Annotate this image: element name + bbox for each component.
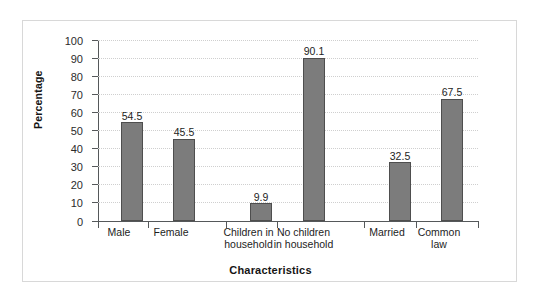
plot-area: 100 90 80 70 60 50 40 30 [98,40,478,221]
x-label-female: Female [141,227,201,239]
bar-value-married: 32.5 [390,151,410,162]
y-tick-90: 90 [92,58,98,59]
y-tick-label-0: 0 [77,217,83,228]
y-tick-40: 40 [92,148,98,149]
y-tick-50: 50 [92,130,98,131]
x-axis-title: Characteristics [23,264,518,276]
bar-male[interactable]: 54.5 [121,122,143,221]
gridline-40 [98,148,478,149]
bar-common-law[interactable]: 67.5 [441,99,463,221]
bar-value-female: 45.5 [174,127,194,138]
x-axis-line [98,221,479,222]
gridline-100 [98,40,478,41]
y-tick-label-90: 90 [71,54,83,65]
y-tick-100: 100 [92,40,98,41]
y-tick-label-70: 70 [71,90,83,101]
gridline-70 [98,94,478,95]
gridline-20 [98,184,478,185]
y-tick-label-100: 100 [65,36,83,47]
gridline-80 [98,76,478,77]
bar-female[interactable]: 45.5 [173,139,195,221]
gridline-50 [98,130,478,131]
y-tick-60: 60 [92,112,98,113]
x-label-no-children-in-household: No children in household [266,227,341,250]
gridline-10 [98,202,478,203]
y-tick-label-20: 20 [71,180,83,191]
y-tick-label-50: 50 [71,126,83,137]
y-axis-title: Percentage [32,70,44,129]
y-tick-10: 10 [92,202,98,203]
gridline-60 [98,112,478,113]
y-tick-label-10: 10 [71,198,83,209]
y-tick-20: 20 [92,184,98,185]
gridline-30 [98,166,478,167]
gridline-90 [98,58,478,59]
y-tick-label-30: 30 [71,162,83,173]
bar-value-common-law: 67.5 [442,87,462,98]
x-label-common-law: Common law [409,227,469,250]
bar-value-no-children-in-household: 90.1 [304,46,324,57]
y-tick-80: 80 [92,76,98,77]
y-tick-label-80: 80 [71,72,83,83]
x-axis-tick-6 [478,222,479,228]
bar-married[interactable]: 32.5 [389,162,411,221]
bar-no-children-in-household[interactable]: 90.1 [303,58,325,221]
y-tick-label-40: 40 [71,144,83,155]
y-tick-30: 30 [92,166,98,167]
y-tick-70: 70 [92,94,98,95]
bar-children-in-household[interactable]: 9.9 [250,203,272,221]
bar-value-children-in-household: 9.9 [254,192,269,203]
x-label-male: Male [89,227,149,239]
chart-frame: Percentage 100 90 80 70 60 50 40 [22,20,517,282]
x-label-married: Married [357,227,417,239]
y-tick-label-60: 60 [71,108,83,119]
bar-value-male: 54.5 [122,111,142,122]
